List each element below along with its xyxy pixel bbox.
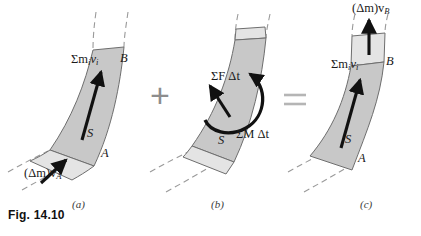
panel-a-momentum-sigma: Σm xyxy=(71,52,88,66)
panel-a-momentum-sub2: i xyxy=(96,57,98,67)
panel-a-momentum-label: Σmivi xyxy=(71,53,98,67)
subcaption-a: (a) xyxy=(72,198,85,210)
system-body-b xyxy=(192,38,266,162)
panel-c-point-a-label: A xyxy=(358,152,366,165)
system-body-c xyxy=(310,62,384,170)
duct-dashed-upper-right-b xyxy=(266,14,270,38)
panel-c-momentum-label: Σmivi xyxy=(331,58,358,72)
figure-14-10: + Σmivi B S A (Δm)vA ΣF Δt ΣM Δt S (Δm)v… xyxy=(0,0,421,236)
panel-a-inflow-sub: A xyxy=(56,171,61,181)
panel-c-outflow-label: (Δm)vB xyxy=(352,2,390,16)
panel-a-system-label: S xyxy=(87,127,93,140)
panel-c-outflow-text: (Δm)v xyxy=(352,1,384,15)
equals-operator-graphic xyxy=(284,95,306,104)
panel-a-inflow-text: (Δm)v xyxy=(24,166,56,180)
duct-dashed-upper-right-c xyxy=(385,14,388,33)
panel-c-momentum-sigma: Σm xyxy=(331,57,348,71)
subcaption-b: (b) xyxy=(211,198,224,210)
panel-a-inflow-label: (Δm)vA xyxy=(24,167,62,181)
panel-c-point-b-label: B xyxy=(386,55,394,68)
panel-a-point-a-label: A xyxy=(101,147,109,160)
panel-c-momentum-sub2: i xyxy=(356,62,358,72)
panel-b-system-label: S xyxy=(218,134,224,147)
panel-a-graphic xyxy=(8,12,128,190)
panel-c-system-label: S xyxy=(345,133,351,146)
panel-b-force-impulse-label: ΣF Δt xyxy=(211,70,240,83)
panel-b-moment-impulse-label: ΣM Δt xyxy=(236,128,269,141)
duct-dashed-upper-left-a xyxy=(93,12,96,50)
panel-a-point-b-label: B xyxy=(120,52,128,65)
panel-c-outflow-sub: B xyxy=(384,6,389,16)
figure-caption: Fig. 14.10 xyxy=(8,208,65,222)
duct-dashed-upper-right-a xyxy=(124,12,128,47)
subcaption-c: (c) xyxy=(360,198,372,210)
duct-dashed-lower-upper-b xyxy=(150,151,190,172)
plus-operator: + xyxy=(150,78,170,112)
duct-dashed-upper-left-c xyxy=(352,14,355,36)
